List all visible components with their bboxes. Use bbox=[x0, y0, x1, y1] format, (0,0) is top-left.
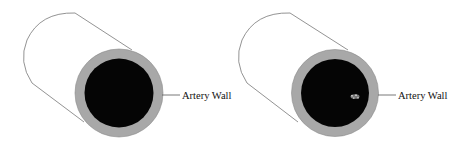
artery-lumen-right bbox=[301, 59, 369, 127]
artery-diagram: Artery Wall Artery Wall bbox=[0, 0, 467, 149]
artery-left: Artery Wall bbox=[23, 13, 231, 137]
artery-lumen-left bbox=[85, 59, 154, 128]
artery-wall-label-left: Artery Wall bbox=[182, 90, 231, 101]
plaque-deposit bbox=[351, 94, 360, 99]
artery-wall-label-right: Artery Wall bbox=[398, 90, 447, 101]
artery-right: Artery Wall bbox=[238, 13, 447, 137]
